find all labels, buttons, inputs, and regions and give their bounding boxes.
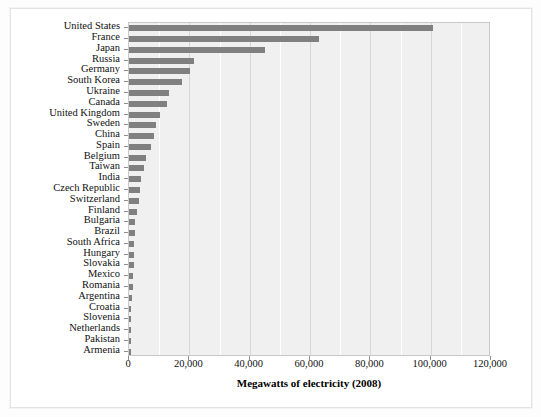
y-axis-tick-label: Switzerland [70,194,120,204]
x-axis-labels: 020,00040,00060,00080,000100,000120,000 [0,358,541,376]
y-axis-tick [124,60,128,61]
y-axis-tick [124,178,128,179]
y-axis-tick-label: United Kingdom [49,108,120,118]
y-axis-tick [124,211,128,212]
y-axis-tick-label: Ukraine [86,86,120,96]
y-axis-tick-label: South Africa [67,237,120,247]
x-axis-title: Megawatts of electricity (2008) [128,377,490,389]
y-axis-tick-label: China [95,129,120,139]
y-axis-tick [124,146,128,147]
y-axis-tick [124,49,128,50]
y-axis-tick-label: Croatia [89,302,120,312]
y-axis-tick-label: Russia [92,54,120,64]
y-axis-tick [124,243,128,244]
y-axis-tick [124,232,128,233]
y-axis-tick-label: Sweden [87,118,120,128]
x-axis-tick [430,356,431,360]
y-axis-tick [124,167,128,168]
bar [129,198,139,204]
bar [129,273,133,279]
y-axis-tick-label: Slovenia [83,312,120,322]
y-axis-tick-label: Pakistan [84,334,120,344]
bar [129,165,144,171]
x-axis-tick [369,356,370,360]
y-axis-tick [124,308,128,309]
x-axis-tick [188,356,189,360]
bar [129,58,194,64]
y-axis-tick-label: Brazil [94,226,120,236]
y-axis-tick [124,318,128,319]
bar-series [129,23,489,355]
y-axis-labels: United StatesFranceJapanRussiaGermanySou… [0,22,124,356]
y-axis-tick [124,189,128,190]
y-axis-tick [124,114,128,115]
y-axis-tick [124,221,128,222]
y-axis-tick-label: Armenia [83,345,120,355]
y-axis-tick [124,275,128,276]
y-axis-tick [124,70,128,71]
y-axis-tick-label: Belgium [84,151,120,161]
y-axis-tick [124,157,128,158]
bar [129,79,182,85]
bar [129,90,169,96]
x-axis-tick [490,356,491,360]
y-axis-tick-label: Bulgaria [84,215,120,225]
y-axis-tick [124,200,128,201]
y-axis-tick [124,351,128,352]
y-axis-tick-label: Germany [81,64,120,74]
y-axis-tick-label: South Korea [67,75,120,85]
bar [129,295,132,301]
x-axis-tick [249,356,250,360]
y-axis-tick [124,329,128,330]
bar [129,306,131,312]
y-axis-tick-label: Canada [89,97,121,107]
bar [129,316,131,322]
y-axis-tick-label: Hungary [83,248,120,258]
y-axis-tick-label: Netherlands [69,323,120,333]
bar [129,284,133,290]
y-axis-tick-label: Japan [96,43,120,53]
chart-figure: United StatesFranceJapanRussiaGermanySou… [0,0,541,417]
y-axis-tick [124,340,128,341]
bar [129,101,167,107]
y-axis-tick-label: Taiwan [89,161,120,171]
y-axis-tick [124,38,128,39]
bar [129,338,131,344]
bar [129,155,146,161]
y-axis-tick-label: Mexico [88,269,120,279]
bar [129,133,154,139]
bar [129,327,131,333]
bar [129,36,319,42]
bar [129,68,190,74]
bar [129,187,140,193]
bar [129,241,134,247]
y-axis-tick-label: Czech Republic [53,183,120,193]
bar [129,47,265,53]
y-axis-tick [124,254,128,255]
y-axis-tick-label: Finland [88,205,120,215]
bar [129,252,134,258]
bar [129,144,151,150]
plot-area [128,22,490,356]
y-axis-tick-label: United States [64,21,120,31]
x-axis-tick [128,356,129,360]
x-axis-tick [309,356,310,360]
bar [129,349,131,355]
y-axis-tick [124,135,128,136]
bar [129,209,137,215]
y-axis-tick [124,103,128,104]
y-axis-tick [124,297,128,298]
y-axis-tick [124,81,128,82]
y-axis-tick [124,286,128,287]
bar [129,112,160,118]
y-axis-tick-label: Romania [82,280,120,290]
y-axis-tick [124,92,128,93]
y-axis-tick-label: Slovakia [83,258,120,268]
y-axis-tick [124,124,128,125]
y-axis-tick-label: India [98,172,120,182]
y-axis-tick [124,27,128,28]
bar [129,262,134,268]
bar [129,219,135,225]
bar [129,25,433,31]
y-axis-tick-label: France [91,32,120,42]
